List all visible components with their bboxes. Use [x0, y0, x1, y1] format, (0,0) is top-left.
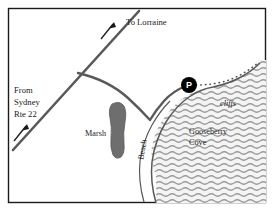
- label-cove-line1: Gooseberry: [189, 127, 228, 136]
- label-cliffs: cliffs: [220, 99, 236, 108]
- label-cove-line2: Cove: [189, 138, 207, 147]
- label-marsh: Marsh: [85, 129, 106, 138]
- label-from-sydney-line2: Sydney: [14, 97, 40, 107]
- parking-marker[interactable]: P: [181, 77, 197, 93]
- parking-label: P: [186, 80, 192, 90]
- map-canvas: P To Lorraine From Sydney Rte 22 Marsh B…: [0, 0, 274, 211]
- label-to-lorraine: To Lorraine: [126, 17, 167, 27]
- label-from-sydney-line3: Rte 22: [14, 109, 37, 119]
- map-figure: P To Lorraine From Sydney Rte 22 Marsh B…: [0, 0, 274, 211]
- label-from-sydney-line1: From: [14, 85, 33, 95]
- marsh-area: [109, 102, 125, 158]
